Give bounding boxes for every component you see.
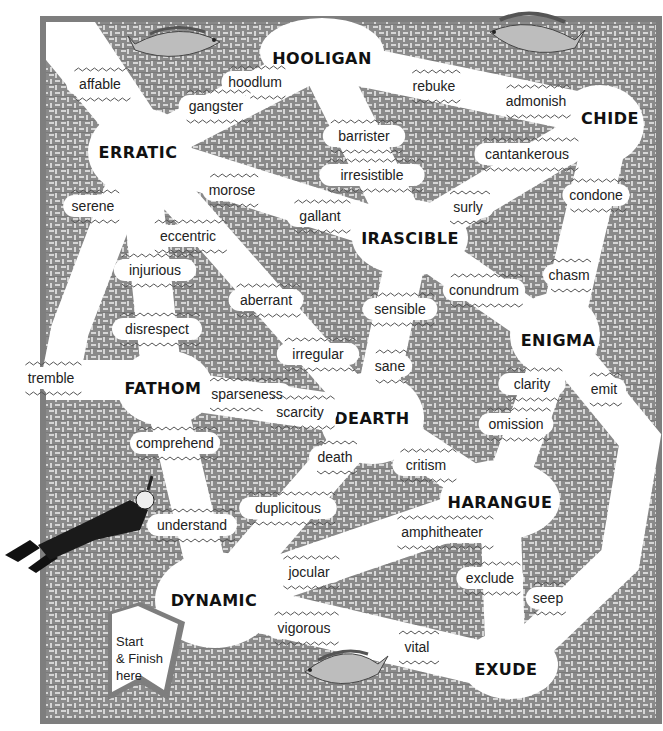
clue-text: hoodlum (228, 74, 282, 90)
clue-text: sane (375, 358, 406, 374)
clue-text: conundrum (449, 282, 519, 298)
node-harangue: HARANGUE (448, 493, 553, 512)
clue-text: tremble (28, 370, 75, 386)
clue-text: chasm (548, 267, 589, 283)
word-maze-diagram: HOOLIGANERRATICCHIDEIRASCIBLEENIGMAFATHO… (0, 0, 663, 731)
clue-text: morose (209, 182, 256, 198)
clue-text: surly (453, 199, 483, 215)
clue-text: irregular (292, 346, 344, 362)
clue-text: amphitheater (401, 524, 483, 540)
clue-text: eccentric (160, 228, 216, 244)
start-finish-label: here (116, 668, 142, 683)
clue-text: scarcity (276, 404, 323, 420)
clue-text: vital (405, 639, 430, 655)
clue-text: duplicitous (255, 500, 321, 516)
node-fathom: FATHOM (124, 379, 201, 398)
clue-text: death (317, 449, 352, 465)
clue-text: critism (406, 457, 446, 473)
clue-text: condone (569, 187, 623, 203)
clue-text: comprehend (136, 435, 214, 451)
node-enigma: ENIGMA (521, 331, 596, 350)
clue-text: gangster (189, 98, 244, 114)
node-exude: EXUDE (475, 660, 538, 679)
clue-text: sparseness (211, 386, 283, 402)
clue-text: gallant (299, 208, 340, 224)
clue-text: clarity (514, 376, 551, 392)
node-dearth: DEARTH (334, 409, 410, 428)
clue-text: aberrant (240, 292, 292, 308)
clue-text: exclude (466, 570, 514, 586)
clue-text: cantankerous (485, 146, 569, 162)
clue-text: injurious (129, 262, 181, 278)
clue-text: omission (488, 416, 543, 432)
start-finish-label: Start (116, 634, 144, 649)
clue-text: emit (591, 381, 618, 397)
clue-text: admonish (506, 93, 567, 109)
node-hooligan: HOOLIGAN (272, 49, 372, 68)
clue-text: serene (72, 198, 115, 214)
clue-text: sensible (374, 301, 426, 317)
clue-text: rebuke (413, 78, 456, 94)
clue-text: jocular (287, 564, 330, 580)
clue-text: disrespect (125, 321, 189, 337)
clue-text: barrister (338, 128, 390, 144)
clue-text: seep (533, 590, 564, 606)
clue-text: vigorous (278, 620, 331, 636)
start-finish-label: & Finish (116, 651, 163, 666)
clue-text: irresistible (340, 167, 403, 183)
node-erratic: ERRATIC (99, 143, 178, 162)
node-dynamic: DYNAMIC (171, 591, 258, 610)
clue-text: affable (79, 76, 121, 92)
clue-text: understand (157, 517, 227, 533)
node-chide: CHIDE (581, 109, 639, 128)
node-irascible: IRASCIBLE (361, 229, 459, 248)
